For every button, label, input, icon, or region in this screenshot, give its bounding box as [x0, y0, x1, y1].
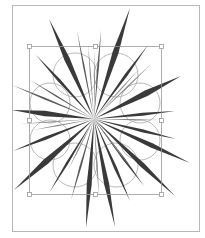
petal-outline — [30, 120, 70, 160]
handle-bottom-right[interactable] — [160, 193, 164, 197]
handle-top-left[interactable] — [28, 45, 32, 49]
starburst-spike — [14, 119, 94, 190]
starburst-spike — [86, 119, 94, 228]
starburst-artwork[interactable] — [0, 0, 205, 238]
artboard-frame — [13, 6, 200, 232]
starburst-spike — [13, 119, 94, 151]
handle-middle-left[interactable] — [28, 119, 32, 123]
handle-middle-right[interactable] — [160, 119, 164, 123]
handle-bottom-center[interactable] — [94, 193, 98, 197]
handle-bottom-left[interactable] — [28, 193, 32, 197]
starburst-spike — [49, 19, 94, 119]
starburst-spike — [94, 68, 140, 119]
handle-top-center[interactable] — [94, 45, 98, 49]
vector-canvas[interactable] — [0, 0, 205, 238]
starburst-spike — [36, 55, 94, 119]
starburst-spike — [77, 31, 94, 119]
starburst-spike — [94, 119, 158, 120]
starburst-spike — [94, 119, 190, 163]
handle-top-right[interactable] — [160, 45, 164, 49]
